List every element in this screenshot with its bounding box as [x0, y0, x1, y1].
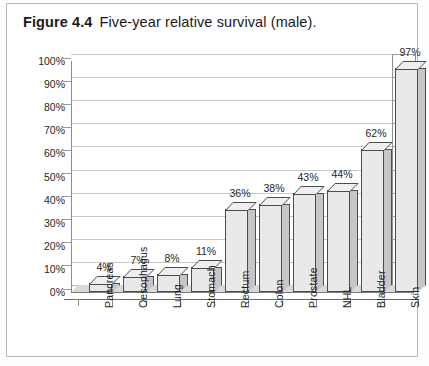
bar-column — [327, 183, 350, 292]
gridline — [71, 100, 392, 101]
bar-value-label: 97% — [387, 46, 429, 58]
x-category-label: Bladder — [375, 270, 387, 308]
y-tick-label: 0% — [31, 286, 65, 298]
bar-side-face — [418, 68, 426, 292]
x-category-label: Stomach — [205, 265, 217, 308]
figure-caption: Figure 4.4Five-year relative survival (m… — [23, 14, 317, 30]
figure-frame: Figure 4.4Five-year relative survival (m… — [6, 3, 418, 357]
y-tick-label: 90% — [31, 78, 65, 90]
x-category-label: Pancreas — [103, 262, 115, 308]
gridline — [71, 54, 392, 55]
bar-top-face — [157, 267, 188, 275]
x-category-label: Skin — [409, 287, 421, 308]
x-category-label: Colon — [273, 280, 285, 308]
bar-front-face — [327, 190, 350, 292]
x-tick — [78, 299, 79, 306]
x-category-label: NHL — [341, 286, 353, 308]
figure-container: Figure 4.4Five-year relative survival (m… — [0, 0, 429, 366]
y-tick-label: 80% — [31, 101, 65, 113]
figure-number: Figure 4.4 — [23, 14, 93, 30]
gridline — [71, 77, 392, 78]
bar-side-face — [350, 190, 358, 292]
bar-top-face — [293, 186, 324, 194]
y-axis-line — [71, 61, 72, 292]
gridline — [71, 123, 392, 124]
y-tick-label: 100% — [31, 55, 65, 67]
bar-top-face — [361, 142, 392, 150]
x-category-label: Prostate — [307, 267, 319, 308]
bar-column — [395, 61, 418, 292]
y-tick-label: 30% — [31, 217, 65, 229]
bar-top-face — [327, 183, 358, 191]
y-tick-label: 20% — [31, 240, 65, 252]
bar-top-face — [259, 197, 290, 205]
bar-top-face — [395, 61, 426, 69]
x-category-label: Oesophagus — [137, 246, 149, 308]
gridline — [71, 146, 392, 147]
bar-value-label: 11% — [183, 245, 229, 257]
y-tick-label: 70% — [31, 124, 65, 136]
y-tick-label: 50% — [31, 171, 65, 183]
y-tick-label: 40% — [31, 194, 65, 206]
bar-value-label: 44% — [319, 168, 365, 180]
chart-plot-area: 0%10%20%30%40%50%60%70%80%90%100% 4%7%8%… — [47, 54, 417, 314]
bar-value-label: 38% — [251, 182, 297, 194]
y-tick-label: 10% — [31, 263, 65, 275]
bar-front-face — [395, 68, 418, 292]
bar-top-face — [225, 202, 256, 210]
bar-column — [259, 197, 282, 292]
figure-title-text: Five-year relative survival (male). — [100, 14, 317, 30]
x-category-label: Lung — [171, 284, 183, 308]
bar-value-label: 62% — [353, 127, 399, 139]
y-tick-label: 60% — [31, 147, 65, 159]
x-category-label: Rectum — [239, 271, 251, 308]
